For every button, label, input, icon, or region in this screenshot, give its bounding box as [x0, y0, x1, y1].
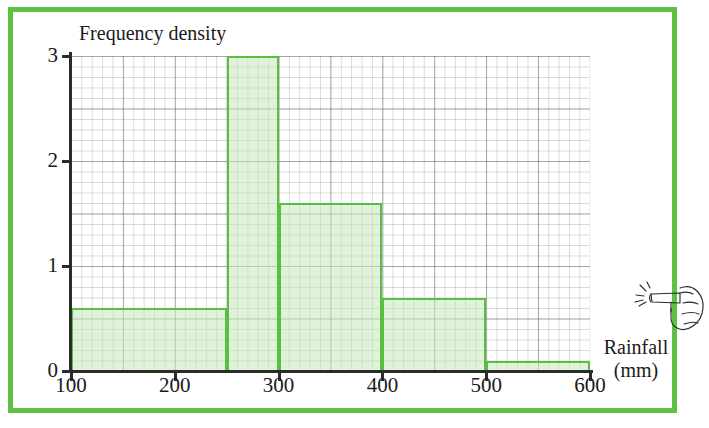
- y-axis-line: [69, 52, 72, 373]
- y-axis-tick: [62, 160, 72, 163]
- x-axis-line: [69, 370, 593, 373]
- x-axis-title-main: Rainfall: [592, 336, 680, 359]
- histogram-bar: [382, 298, 486, 372]
- histogram-bar: [279, 203, 383, 371]
- y-axis-title: Frequency density: [79, 22, 226, 45]
- x-axis-tick-label: 400: [352, 375, 412, 396]
- pointing-hand-icon: [634, 276, 708, 338]
- x-axis-tick-label: 200: [145, 375, 205, 396]
- y-axis-tick-label: 3: [28, 45, 58, 66]
- x-axis-tick-label: 500: [456, 375, 516, 396]
- histogram-figure: Frequency density 0123 10020030040050060…: [0, 0, 709, 428]
- histogram-bar: [71, 308, 227, 371]
- x-axis-tick-label: 300: [249, 375, 309, 396]
- x-axis-title: Rainfall (mm): [592, 336, 680, 382]
- y-axis-tick: [62, 55, 72, 58]
- x-axis-tick-label: 100: [41, 375, 101, 396]
- x-axis-title-unit: (mm): [592, 359, 680, 382]
- y-axis-tick-label: 2: [28, 150, 58, 171]
- y-axis-tick: [62, 265, 72, 268]
- histogram-bar: [227, 56, 279, 371]
- plot-area: [71, 56, 590, 371]
- y-axis-tick-label: 1: [28, 255, 58, 276]
